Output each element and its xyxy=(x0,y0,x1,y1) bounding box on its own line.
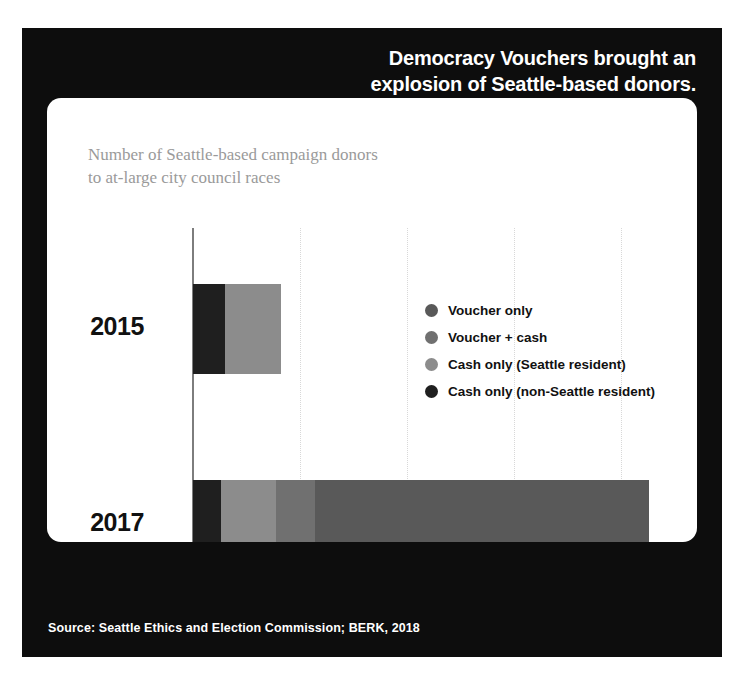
bar-segment xyxy=(221,480,277,542)
chart-legend: Voucher onlyVoucher + cashCash only (Sea… xyxy=(425,298,655,406)
headline-line-1: Democracy Vouchers brought an xyxy=(389,47,696,69)
legend-swatch-icon xyxy=(425,331,438,344)
infographic-root: Democracy Vouchers brought an explosion … xyxy=(0,0,744,680)
bar-segment xyxy=(315,480,649,542)
legend-item-label: Cash only (Seattle resident) xyxy=(448,357,626,372)
legend-item: Cash only (Seattle resident) xyxy=(425,352,655,377)
headline: Democracy Vouchers brought an explosion … xyxy=(256,46,696,97)
legend-swatch-icon xyxy=(425,385,438,398)
bar-segment xyxy=(193,480,221,542)
bar-segment xyxy=(193,284,225,374)
source-note: Source: Seattle Ethics and Election Comm… xyxy=(48,621,420,635)
stacked-bar xyxy=(193,284,281,374)
legend-swatch-icon xyxy=(425,358,438,371)
legend-item-label: Cash only (non-Seattle resident) xyxy=(448,384,655,399)
chart-card: Number of Seattle-based campaign donors … xyxy=(47,98,697,542)
legend-item-label: Voucher only xyxy=(448,303,533,318)
black-panel: Democracy Vouchers brought an explosion … xyxy=(22,28,722,657)
legend-swatch-icon xyxy=(425,304,438,317)
category-label-2017: 2017 xyxy=(57,508,177,537)
headline-line-2: explosion of Seattle-based donors. xyxy=(256,72,696,98)
legend-item: Cash only (non-Seattle resident) xyxy=(425,379,655,404)
legend-item-label: Voucher + cash xyxy=(448,330,547,345)
legend-item: Voucher only xyxy=(425,298,655,323)
stacked-bar xyxy=(193,480,649,542)
bar-segment xyxy=(276,480,315,542)
category-label-2015: 2015 xyxy=(57,312,177,341)
bar-segment xyxy=(225,284,281,374)
legend-item: Voucher + cash xyxy=(425,325,655,350)
